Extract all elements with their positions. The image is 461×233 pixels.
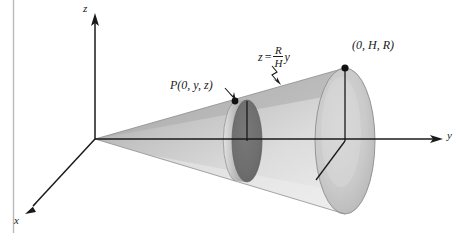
diagram-canvas (0, 0, 461, 233)
cone-diagram-figure: z y x P(0, y, z) (0, H, R) z = R H y (0, 0, 461, 233)
cone-equation-label: z = R H y (258, 45, 290, 69)
equation-rhs-variable: y (284, 51, 289, 63)
top-point-label: (0, H, R) (352, 39, 394, 51)
equation-numerator: R (274, 45, 283, 56)
point-p-label-coords: (0, y, z) (177, 78, 212, 92)
point-p-label: P(0, y, z) (170, 79, 213, 91)
equation-denominator: H (273, 58, 283, 69)
cone-base-highlight (321, 77, 361, 187)
x-axis-line (33, 139, 95, 206)
z-axis-label: z (83, 3, 87, 14)
cross-section-slab (223, 100, 262, 182)
x-axis-arrowhead (25, 202, 38, 214)
x-axis-label: x (14, 215, 19, 226)
point-top-dot (341, 64, 348, 71)
y-axis-label: y (447, 130, 452, 141)
equation-lhs: z (258, 51, 263, 63)
equation-fraction: R H (273, 45, 283, 69)
equation-operator: = (265, 51, 272, 63)
